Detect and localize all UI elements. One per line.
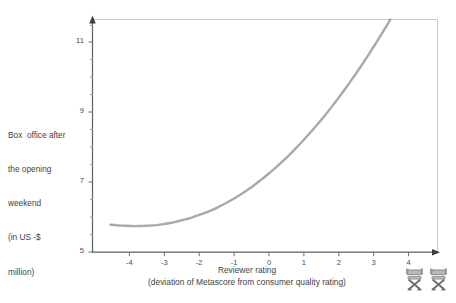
y-axis-label-line-5: million): [8, 267, 88, 278]
y-axis-label: Box office after the opening weekend (in…: [8, 107, 88, 301]
directors-chair-icon: [428, 267, 449, 291]
x-axis-title: Reviewer rating: [92, 264, 402, 276]
y-axis-label-line-4: (in US -$: [8, 232, 88, 243]
y-axis-label-line-3: weekend: [8, 198, 88, 209]
x-axis-major-ticks: [129, 252, 408, 256]
x-tick-label-4: 4: [401, 258, 417, 267]
y-axis-label-line-2: the opening: [8, 164, 88, 175]
directors-chair-icon: [404, 267, 425, 291]
x-axis-arrowhead: [432, 249, 440, 256]
data-curve: [110, 20, 390, 227]
chart-figure: 11 9 7 5 -4 -3 -2 -1 0 1 2 3 4 Box offic…: [0, 0, 456, 303]
y-axis-label-line-1: Box office after: [8, 130, 88, 141]
y-tick-label-11: 11: [68, 36, 84, 45]
chair-icons-group: [404, 267, 452, 293]
x-axis-subtitle: (deviation of Metascore from consumer qu…: [92, 276, 402, 288]
x-axis-label-block: Reviewer rating (deviation of Metascore …: [92, 264, 402, 288]
